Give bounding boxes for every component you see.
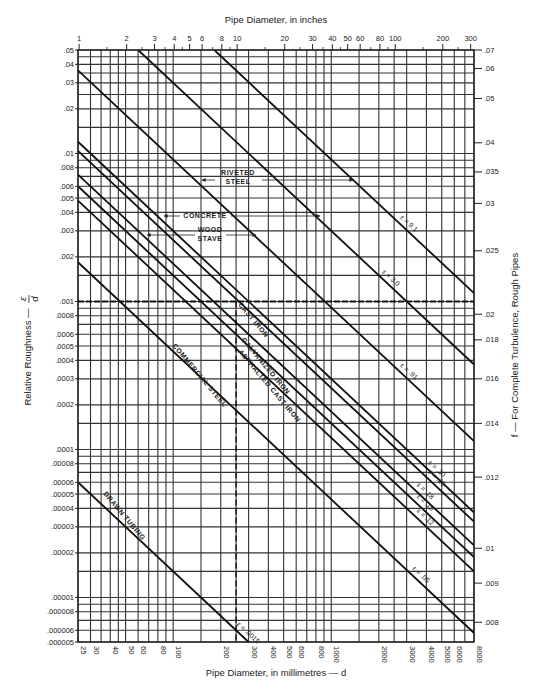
roughness-line [138,50,474,364]
top-tick-label: 200 [437,34,450,43]
top-tick-label: 50 [343,34,351,43]
bottom-tick: 5000 [443,646,452,663]
right-tick-label: .016 [484,374,499,383]
bottom-tick-label: 800 [317,646,326,659]
left-tick-label: .0006 [55,330,74,339]
bottom-tick-label: 30 [92,646,101,654]
bottom-tick-label: 3000 [408,646,417,663]
riveted-steel-label-2: STEEL [225,178,250,185]
bottom-tick-label: 2000 [380,646,389,663]
bottom-tick: 1000 [332,646,341,663]
bottom-tick: 400 [269,646,278,659]
left-tick-label: .000005 [47,638,74,647]
right-tick-label: .035 [484,167,499,176]
epsilon-label-text: ε = 9.1 [399,214,419,233]
top-tick-label: 60 [356,34,364,43]
right-tick-label: .025 [484,246,499,255]
top-tick-label: 40 [328,34,336,43]
right-axis-title: f — For Complete Turbulence, Rough Pipes [509,253,520,438]
bottom-tick: 2000 [380,646,389,663]
top-tick-label: 80 [376,34,384,43]
left-axis-title-eps: ε [17,296,28,301]
left-axis-title-text: Relative Roughness — [22,308,33,406]
top-tick-label: 100 [389,34,402,43]
bottom-tick: 30 [92,646,101,654]
bottom-tick: 50 [127,646,136,654]
right-tick-label: .06 [484,64,494,73]
left-tick-label: .00001 [51,593,74,602]
epsilon-label: ε = 9.1 [399,214,419,233]
top-tick-label: 20 [281,34,289,43]
bottom-tick: 25 [79,646,88,654]
left-tick-label: .0001 [55,445,74,454]
right-tick-label: .008 [484,618,499,627]
left-tick-label: .05 [64,46,74,55]
left-axis-title: Relative Roughness — ε d [17,295,40,406]
bottom-tick-label: 60 [139,646,148,654]
left-tick-label: .0004 [55,356,74,365]
bottom-tick-label: 50 [127,646,136,654]
bottom-tick: 100 [174,646,183,659]
epsilon-label-text: ε = .91 [399,362,419,381]
epsilon-label-text: ε = .05 [411,565,431,584]
top-tick-label: 300 [464,34,477,43]
bottom-tick: 8000 [475,646,484,663]
left-tick-label: .008 [59,163,74,172]
bottom-axis-title: Pipe Diameter, in millimetres — d [206,667,346,678]
left-tick-label: .005 [59,194,74,203]
top-tick-label: 30 [308,34,316,43]
left-axis-title-d: d [29,296,40,302]
bottom-tick: 800 [317,646,326,659]
right-tick-label: .009 [484,579,499,588]
bottom-tick: 300 [250,646,259,659]
bottom-tick-label: 25 [79,646,88,654]
left-tick-label: .02 [64,104,74,113]
bottom-tick: 6000 [455,646,464,663]
wood-stave-label-1: WOOD [198,226,223,233]
right-tick-label: .05 [484,94,494,103]
left-tick-label: .001 [59,297,74,306]
roughness-line [78,151,474,522]
bottom-tick-label: 8000 [475,646,484,663]
left-tick-label: .000006 [47,626,74,635]
left-tick-label: .0008 [55,311,74,320]
top-tick-label: 10 [233,34,241,43]
bottom-tick: 60 [139,646,148,654]
top-tick-label: 4 [172,34,176,43]
bottom-tick: 500 [285,646,294,659]
left-tick-label: .0002 [55,400,74,409]
roughness-line [78,262,474,633]
right-tick-label: .014 [484,419,499,428]
right-tick-label: .03 [484,199,494,208]
right-tick-label: .07 [484,46,494,55]
top-tick-label: 5 [187,34,191,43]
commercial-steel-label: COMMERCIAL STEEL [171,342,228,408]
bottom-tick-label: 500 [285,646,294,659]
left-tick-label: .00008 [51,459,74,468]
bottom-tick-label: 100 [174,646,183,659]
top-tick-label: 6 [200,34,204,43]
annotation-commercial-steel: COMMERCIAL STEEL [171,342,228,408]
left-tick-label: .00005 [51,490,74,499]
bottom-tick-label: 6000 [455,646,464,663]
left-tick-label: .00004 [51,504,74,513]
left-tick-label: .03 [64,78,74,87]
bottom-tick: 4000 [427,646,436,663]
bottom-tick-label: 1000 [332,646,341,663]
bottom-tick-label: 40 [111,646,120,654]
left-tick-label: .01 [64,149,74,158]
moody-roughness-chart: 123456810203040506080100200300 253040506… [0,0,540,690]
roughness-line [78,482,249,642]
left-tick-label: .006 [59,182,74,191]
left-tick-label: .00002 [51,548,74,557]
right-tick-label: .018 [484,335,499,344]
bottom-axis-ticks: 2530405060801002003004005006008001000200… [79,646,484,663]
right-tick-label: .04 [484,138,494,147]
bottom-tick-label: 600 [297,646,306,659]
top-tick-label: 2 [125,34,129,43]
top-tick-label: 8 [220,34,224,43]
bottom-tick-label: 400 [269,646,278,659]
bottom-tick-label: 200 [222,646,231,659]
bottom-tick-label: 80 [159,646,168,654]
bottom-tick-label: 300 [250,646,259,659]
